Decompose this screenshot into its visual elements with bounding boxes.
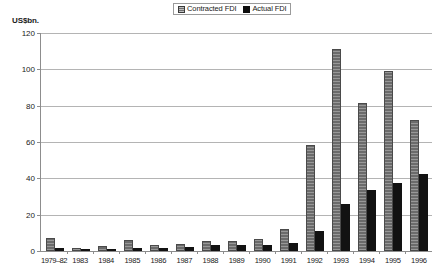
x-axis-tick <box>353 251 354 254</box>
bar-actual-fdi <box>289 243 298 251</box>
y-axis-tick <box>37 142 41 143</box>
hatched-gray-swatch-icon <box>178 6 185 13</box>
x-axis-tick <box>197 251 198 254</box>
x-axis-labels: 1979–82198319841985198619871988198919901… <box>41 256 432 265</box>
y-axis-tick <box>37 33 41 34</box>
legend-label-contracted-fdi: Contracted FDI <box>187 5 236 13</box>
bar-contracted-fdi <box>202 241 211 251</box>
bar-group <box>276 33 302 251</box>
bar-group <box>42 33 68 251</box>
bar-contracted-fdi <box>176 244 185 251</box>
bar-actual-fdi <box>211 245 220 251</box>
y-axis-tick-label: 60 <box>5 138 35 147</box>
x-axis-tick <box>67 251 68 254</box>
bar-group <box>250 33 276 251</box>
x-axis-label: 1984 <box>93 256 119 265</box>
bar-actual-fdi <box>107 249 116 251</box>
x-axis-label: 1993 <box>328 256 354 265</box>
bar-contracted-fdi <box>46 238 55 251</box>
bar-group <box>198 33 224 251</box>
bar-actual-fdi <box>263 245 272 251</box>
bar-contracted-fdi <box>306 145 315 251</box>
x-axis-label: 1988 <box>197 256 223 265</box>
bar-contracted-fdi <box>150 245 159 251</box>
plot-area: 020406080100120 <box>40 33 432 252</box>
y-axis-tick-label: 80 <box>5 101 35 110</box>
x-axis-label: 1994 <box>354 256 380 265</box>
bars-layer <box>42 33 432 251</box>
x-axis-label: 1983 <box>67 256 93 265</box>
y-axis-tick-label: 20 <box>5 210 35 219</box>
bar-actual-fdi <box>419 174 428 251</box>
x-axis-tick <box>119 251 120 254</box>
x-axis-tick <box>145 251 146 254</box>
y-axis-tick <box>37 69 41 70</box>
bar-contracted-fdi <box>384 71 393 251</box>
x-axis-tick <box>93 251 94 254</box>
legend-label-actual-fdi: Actual FDI <box>252 5 286 13</box>
x-axis-label: 1991 <box>276 256 302 265</box>
bar-actual-fdi <box>237 245 246 251</box>
x-axis-tick <box>275 251 276 254</box>
chart-legend: Contracted FDI Actual FDI <box>173 3 291 15</box>
x-axis-tick <box>379 251 380 254</box>
bar-contracted-fdi <box>280 229 289 251</box>
bar-actual-fdi <box>159 248 168 251</box>
legend-entry-contracted-fdi: Contracted FDI <box>178 5 236 13</box>
bar-group <box>224 33 250 251</box>
bar-group <box>328 33 354 251</box>
bar-contracted-fdi <box>72 248 81 251</box>
bar-actual-fdi <box>367 190 376 251</box>
x-axis-label: 1987 <box>171 256 197 265</box>
bar-contracted-fdi <box>410 120 419 251</box>
bar-group <box>380 33 406 251</box>
x-axis-tick <box>249 251 250 254</box>
bar-group <box>302 33 328 251</box>
x-axis-label: 1989 <box>223 256 249 265</box>
bar-actual-fdi <box>81 249 90 251</box>
solid-black-swatch-icon <box>243 6 250 13</box>
bar-group <box>68 33 94 251</box>
bar-actual-fdi <box>55 248 64 251</box>
x-axis-label: 1990 <box>250 256 276 265</box>
bar-contracted-fdi <box>332 49 341 251</box>
bar-group <box>172 33 198 251</box>
bar-group <box>146 33 172 251</box>
bar-group <box>354 33 380 251</box>
bar-group <box>120 33 146 251</box>
bar-contracted-fdi <box>124 240 133 251</box>
x-axis-label: 1979–82 <box>41 256 67 265</box>
bar-contracted-fdi <box>254 239 263 251</box>
y-axis-tick-label: 120 <box>5 29 35 38</box>
x-axis-tick <box>327 251 328 254</box>
y-axis-tick-label: 40 <box>5 174 35 183</box>
bar-contracted-fdi <box>358 103 367 251</box>
x-axis-label: 1985 <box>119 256 145 265</box>
x-axis-tick <box>171 251 172 254</box>
bar-actual-fdi <box>315 231 324 251</box>
bar-contracted-fdi <box>228 241 237 251</box>
bar-actual-fdi <box>393 183 402 251</box>
x-axis-label: 1986 <box>145 256 171 265</box>
y-axis-tick <box>37 106 41 107</box>
y-axis-title: US$bn. <box>12 16 39 25</box>
y-axis-tick <box>37 251 41 252</box>
x-axis-tick <box>301 251 302 254</box>
x-axis-tick <box>405 251 406 254</box>
legend-entry-actual-fdi: Actual FDI <box>243 5 286 13</box>
y-axis-tick <box>37 215 41 216</box>
bar-actual-fdi <box>133 248 142 251</box>
x-axis-label: 1996 <box>406 256 432 265</box>
x-axis-label: 1992 <box>302 256 328 265</box>
x-axis-tick <box>223 251 224 254</box>
y-axis-tick-label: 100 <box>5 65 35 74</box>
bar-contracted-fdi <box>98 246 107 251</box>
bar-group <box>94 33 120 251</box>
x-axis-label: 1995 <box>380 256 406 265</box>
bar-actual-fdi <box>341 204 350 251</box>
bar-actual-fdi <box>185 247 194 251</box>
fdi-bar-chart: Contracted FDI Actual FDI US$bn. 0204060… <box>0 0 437 280</box>
y-axis-tick <box>37 178 41 179</box>
y-axis-tick-label: 0 <box>5 247 35 256</box>
bar-group <box>406 33 432 251</box>
